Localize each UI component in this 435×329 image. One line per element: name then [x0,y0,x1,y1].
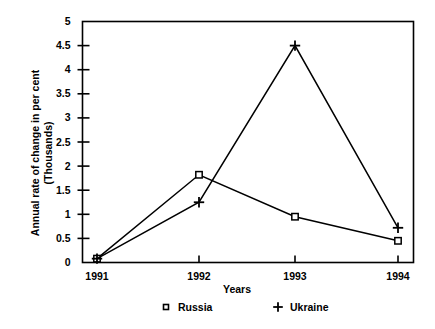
y-tick-label: 1 [37,209,71,220]
plus-marker-icon [272,301,284,313]
y-tick-label: 4 [37,64,71,75]
data-point-ukraine-1994 [393,223,403,233]
y-tick-label: 4.5 [37,40,71,51]
x-axis-title: Years [197,283,277,295]
line-chart: Annual rate of change in per cent (Thous… [0,0,435,329]
data-series-group [92,40,403,263]
data-point-russia-1993 [292,214,298,220]
data-point-russia-1994 [395,238,401,244]
open-square-marker-icon [160,301,172,313]
y-tick-label: 0 [37,257,71,268]
data-point-russia-1992 [196,172,202,178]
y-tick-label: 0.5 [37,233,71,244]
y-tick-label: 5 [37,16,71,27]
data-point-ukraine-1993 [290,40,300,50]
y-tick-label: 1.5 [37,185,71,196]
x-tick-label: 1993 [272,271,318,282]
series-line-russia [97,175,398,259]
y-axis-title: Annual rate of change in per cent (Thous… [29,23,55,283]
legend-label-ukraine: Ukraine [290,302,329,313]
y-tick-label: 2.5 [37,137,71,148]
y-tick-label: 2 [37,161,71,172]
legend-entry-ukraine[interactable]: Ukraine [272,299,329,315]
legend-label-russia: Russia [178,302,212,313]
legend: Russia Ukraine [160,299,400,315]
plot-frame [83,22,414,263]
data-point-ukraine-1992 [194,197,204,207]
x-tick-label: 1994 [375,271,421,282]
legend-entry-russia[interactable]: Russia [160,299,212,315]
x-tick-label: 1992 [176,271,222,282]
series-line-ukraine [97,46,398,259]
y-tick-label: 3.5 [37,88,71,99]
y-tick-label: 3 [37,112,71,123]
x-tick-label: 1991 [74,271,120,282]
